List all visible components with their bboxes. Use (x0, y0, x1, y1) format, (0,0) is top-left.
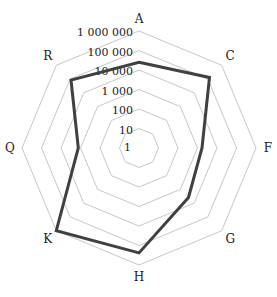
radial-tick-label: 100 000 (88, 46, 134, 59)
radial-tick-label: 100 (112, 104, 133, 117)
axis-label-f: F (264, 141, 272, 155)
axis-label-r: R (43, 49, 53, 63)
radial-tick-label: 1 (124, 141, 131, 154)
radial-tick-label: 10 (119, 124, 133, 137)
grid-ring (100, 109, 178, 187)
grid-ring (61, 70, 217, 226)
axis-labels: ACFGHKQR (5, 12, 272, 284)
axis-label-k: K (43, 232, 53, 246)
radial-tick-label: 1 000 (102, 85, 134, 98)
axis-label-g: G (225, 232, 235, 246)
axis-label-h: H (134, 270, 144, 284)
radial-tick-label: 1 000 000 (77, 26, 133, 39)
grid-ring (81, 90, 198, 207)
axis-label-c: C (226, 49, 235, 63)
radar-chart: 1101001 00010 000100 0001 000 000 ACFGHK… (0, 0, 277, 297)
axis-label-q: Q (5, 141, 15, 155)
axis-label-a: A (134, 12, 144, 26)
